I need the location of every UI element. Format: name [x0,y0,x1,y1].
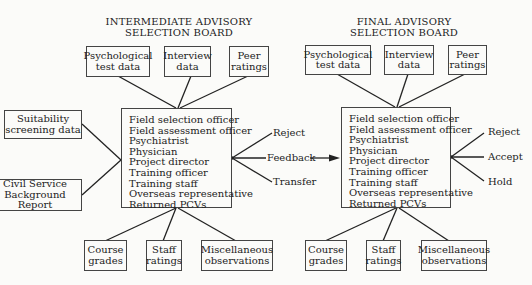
final-outcome-accept: Accept [488,151,523,162]
intermediate-interview-box: Interview data [164,46,211,77]
intermediate-board-title: INTERMEDIATE ADVISORY SELECTION BOARD [100,16,258,38]
member: Training officer [349,167,450,178]
intermediate-board-members-box: Field selection officer Field assessment… [121,108,232,208]
title-line-2: SELECTION BOARD [344,27,464,38]
member: Returned PCVs [129,200,231,211]
final-misc-observations-box: Miscellaneous observations [421,240,487,271]
box-label: Peer ratings [231,51,267,72]
final-peer-ratings-box: Peer ratings [448,45,487,75]
box-label: Course grades [308,245,344,266]
intermediate-psych-test-box: Psychological test data [86,46,150,77]
box-label: Miscellaneous observations [418,245,490,266]
intermediate-staff-ratings-box: Staff ratings [146,240,182,271]
final-staff-ratings-box: Staff ratings [366,240,401,271]
box-label: Interview data [163,51,211,72]
box-label: Staff ratings [146,245,182,266]
box-label: Peer ratings [450,50,486,71]
box-label: Course grades [88,245,124,266]
box-label: Psychological test data [304,50,373,71]
intermediate-outcome-feedback: Feedback [267,152,316,163]
box-label: Interview data [385,50,433,71]
final-psych-test-box: Psychological test data [305,45,371,75]
title-line-1: INTERMEDIATE ADVISORY [100,16,258,27]
box-label: Civil Service Background Report [0,179,81,211]
final-board-members-box: Field selection officer Field assessment… [341,107,451,208]
title-line-2: SELECTION BOARD [100,27,258,38]
final-outcome-hold: Hold [488,176,512,187]
final-board-title: FINAL ADVISORY SELECTION BOARD [344,16,464,38]
suitability-screening-box: Suitability screening data [4,110,82,139]
intermediate-outcome-transfer: Transfer [273,176,316,187]
member: Training officer [129,168,231,179]
title-line-1: FINAL ADVISORY [344,16,464,27]
box-label: Staff ratings [366,245,402,266]
final-outcome-reject: Reject [488,126,520,137]
member: Field selection officer [349,114,450,125]
final-interview-box: Interview data [384,45,434,75]
box-label: Psychological test data [84,51,153,72]
civil-service-report-box: Civil Service Background Report [0,179,82,211]
member: Field selection officer [129,115,231,126]
final-course-grades-box: Course grades [305,240,347,271]
intermediate-course-grades-box: Course grades [84,240,127,271]
box-label: Suitability screening data [5,114,80,135]
box-label: Miscellaneous observations [201,245,273,266]
member: Returned PCVs [349,199,450,210]
intermediate-peer-ratings-box: Peer ratings [229,46,269,77]
intermediate-misc-observations-box: Miscellaneous observations [201,240,273,271]
intermediate-outcome-reject: Reject [273,127,305,138]
